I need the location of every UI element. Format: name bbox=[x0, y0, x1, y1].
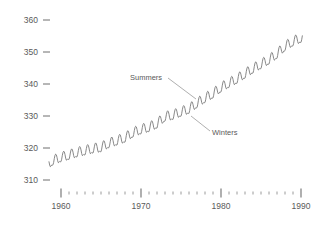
co2-series-line bbox=[49, 35, 302, 167]
x-axis-tick-label: 1960 bbox=[52, 201, 71, 211]
x-axis-tick-labels: 1960197019801990 bbox=[52, 201, 311, 211]
x-axis-tick-label: 1980 bbox=[212, 201, 231, 211]
annotation-label: Summers bbox=[130, 73, 162, 82]
y-axis-tick-marks bbox=[43, 20, 50, 180]
y-axis-tick-label: 320 bbox=[24, 143, 38, 153]
chart-container: 310320330340350360 1960197019801990 Summ… bbox=[0, 0, 327, 228]
y-axis-tick-label: 330 bbox=[24, 111, 38, 121]
chart-annotations: SummersWinters bbox=[130, 73, 238, 137]
x-axis-tick-label: 1970 bbox=[132, 201, 151, 211]
x-axis-tick-label: 1990 bbox=[292, 201, 311, 211]
annotation-leader-line bbox=[191, 116, 210, 131]
annotation-label: Winters bbox=[212, 128, 238, 137]
y-axis-tick-label: 310 bbox=[24, 175, 38, 185]
y-axis-tick-labels: 310320330340350360 bbox=[24, 15, 38, 185]
y-axis-tick-label: 340 bbox=[24, 79, 38, 89]
y-axis-tick-label: 350 bbox=[24, 47, 38, 57]
keeling-curve-chart: 310320330340350360 1960197019801990 Summ… bbox=[0, 0, 327, 228]
annotation-leader-line bbox=[168, 78, 196, 99]
x-axis-tick-marks bbox=[61, 189, 301, 198]
y-axis-tick-label: 360 bbox=[24, 15, 38, 25]
